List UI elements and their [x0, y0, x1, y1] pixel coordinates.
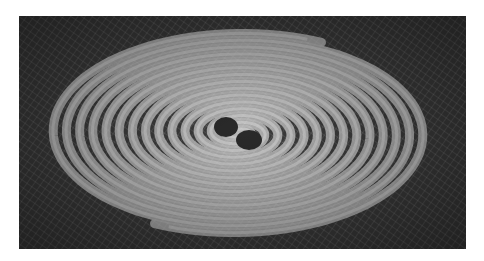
vignette: [19, 16, 466, 249]
spiral-illustration: [19, 16, 466, 249]
gravitational-wave-image: [19, 16, 466, 249]
